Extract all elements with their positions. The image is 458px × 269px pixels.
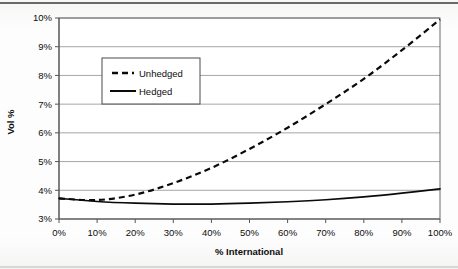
x-tick-label: 80%: [354, 227, 374, 238]
x-tick-label: 70%: [316, 227, 336, 238]
x-tick-label: 20%: [126, 227, 146, 238]
x-tick-label: 100%: [428, 227, 453, 238]
y-tick-label: 6%: [38, 127, 52, 138]
y-axis-tick-labels: 3%4%5%6%7%8%9%10%: [33, 12, 53, 224]
y-tick-label: 7%: [38, 99, 52, 110]
legend-box-frame: [102, 58, 200, 104]
x-axis-tick-labels: 0%10%20%30%40%50%60%70%80%90%100%: [52, 227, 453, 238]
y-tick-label: 10%: [33, 12, 53, 23]
x-tick-label: 90%: [392, 227, 412, 238]
y-tick-label: 4%: [38, 185, 52, 196]
plot-area-background: [59, 18, 440, 219]
chart-figure: 3%4%5%6%7%8%9%10% 0%10%20%30%40%50%60%70…: [0, 0, 458, 269]
x-tickmarks-group: [59, 219, 440, 223]
x-tick-label: 0%: [52, 227, 66, 238]
legend-label-hedged: Hedged: [139, 86, 172, 97]
y-tickmarks-group: [55, 18, 59, 219]
x-tick-label: 60%: [278, 227, 298, 238]
x-tick-label: 10%: [88, 227, 108, 238]
x-tick-label: 50%: [240, 227, 260, 238]
y-tick-label: 9%: [38, 41, 52, 52]
x-axis-title: % International: [215, 246, 283, 257]
y-tick-label: 8%: [38, 70, 52, 81]
y-tick-label: 5%: [38, 156, 52, 167]
legend-label-unhedged: Unhedged: [139, 68, 183, 79]
chart-legend: Unhedged Hedged: [102, 58, 200, 104]
line-chart-svg: 3%4%5%6%7%8%9%10% 0%10%20%30%40%50%60%70…: [0, 0, 458, 269]
x-tick-label: 30%: [164, 227, 184, 238]
y-axis-title: Vol %: [5, 109, 16, 135]
x-tick-label: 40%: [202, 227, 222, 238]
y-tick-label: 3%: [38, 213, 52, 224]
